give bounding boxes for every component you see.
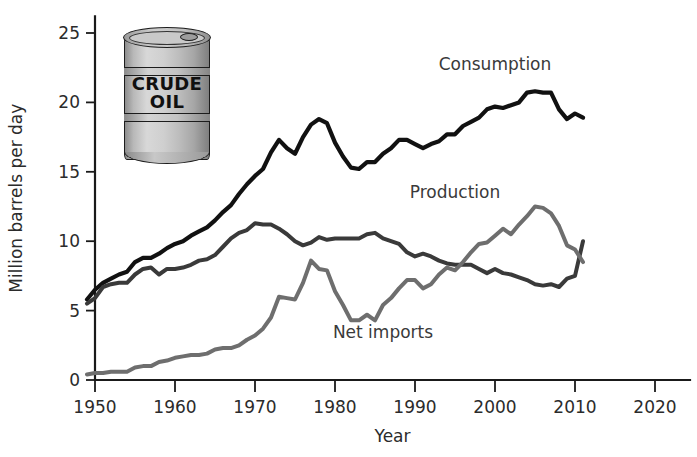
x-axis-tick-label: 1960 [153, 397, 196, 417]
series-label-production: Production [410, 182, 500, 202]
barrel-label: CRUDE OIL [124, 75, 210, 112]
y-axis-title: Million barrels per day [6, 104, 26, 293]
barrel-bung-cap [180, 33, 198, 41]
series-line-net-imports [87, 207, 583, 375]
y-axis-tick-label: 25 [58, 23, 80, 43]
x-axis-tick-label: 1980 [313, 397, 356, 417]
crude-oil-barrel-illustration: CRUDE OIL [118, 23, 216, 168]
barrel-label-line2: OIL [124, 93, 210, 111]
y-axis-tick-label: 10 [58, 231, 80, 251]
series-label-net-imports: Net imports [333, 322, 433, 342]
x-axis-tick-label: 2010 [553, 397, 596, 417]
y-axis-tick-label: 15 [58, 162, 80, 182]
x-axis-title: Year [374, 426, 411, 446]
x-axis-tick-label: 1950 [73, 397, 116, 417]
barrel-rib-lower [124, 113, 210, 122]
y-axis-tick-label: 20 [58, 92, 80, 112]
x-axis-tick-label: 1990 [393, 397, 436, 417]
barrel-bottom [124, 152, 210, 164]
y-axis-tick-label: 0 [69, 370, 80, 390]
y-axis-tick-label: 5 [69, 301, 80, 321]
x-axis-tick-label: 2020 [633, 397, 676, 417]
line-chart: 0510152025195019601970198019902000201020… [0, 0, 697, 457]
series-label-consumption: Consumption [439, 54, 552, 74]
x-axis-tick-label: 1970 [233, 397, 276, 417]
chart-figure: 0510152025195019601970198019902000201020… [0, 0, 697, 457]
x-axis-tick-label: 2000 [473, 397, 516, 417]
